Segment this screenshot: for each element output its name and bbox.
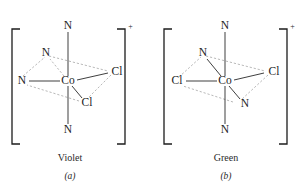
complex-violet: + (12, 19, 133, 183)
plane-edge-front-green (183, 86, 233, 102)
charge-superscript-green: + (290, 22, 295, 31)
caption-green: Green (214, 152, 238, 163)
plane-edge-left-violet (23, 57, 45, 76)
plane-edge-front-violet (27, 85, 79, 101)
ligand-axial-top-violet: N (64, 19, 73, 31)
ligand-eq-front-left-violet: N (18, 74, 27, 86)
left-bracket-close-violet (117, 29, 125, 144)
subcaption-green: (b) (220, 171, 231, 182)
bond-eq-front-right-violet (72, 86, 82, 98)
ligand-eq-front-right-violet: Cl (82, 96, 93, 108)
metal-center-violet: Co (61, 74, 75, 86)
ligand-axial-top-green: N (221, 19, 230, 31)
isomer-diagram-svg: + (0, 0, 303, 189)
isomer-figure: + (0, 0, 303, 189)
metal-center-green: Co (218, 74, 232, 86)
ligand-eq-back-right-green: Cl (269, 65, 280, 77)
bond-eq-back-right-green (234, 73, 264, 80)
ligand-eq-front-right-green: N (241, 97, 250, 109)
ligand-eq-back-left-violet: N (42, 46, 51, 58)
ligand-eq-back-right-violet: Cl (112, 65, 123, 77)
ligand-eq-back-left-green: N (199, 46, 208, 58)
bond-eq-front-right-green (229, 86, 240, 99)
ligand-axial-bottom-violet: N (64, 123, 73, 135)
right-bracket-close-green (279, 29, 287, 144)
left-bracket-open-violet (12, 29, 20, 144)
subcaption-violet: (a) (64, 171, 75, 182)
ligand-axial-bottom-green: N (221, 123, 230, 135)
bond-eq-back-right-violet (77, 73, 108, 80)
charge-superscript-violet: + (128, 22, 133, 31)
right-bracket-open-green (164, 29, 172, 144)
ligand-eq-front-left-green: Cl (172, 74, 183, 86)
complex-green: + (164, 19, 295, 183)
caption-violet: Violet (58, 152, 83, 163)
